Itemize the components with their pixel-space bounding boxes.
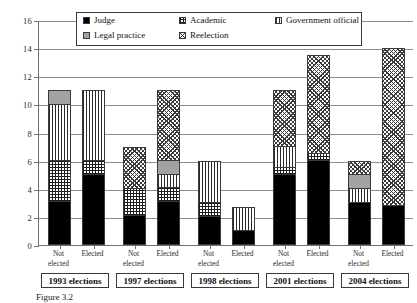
y-axis-label: 16 <box>23 16 32 26</box>
bar-segment-government-official <box>199 162 220 203</box>
bar-segment-reelection <box>124 148 145 189</box>
bar-segment-academic <box>158 188 179 202</box>
x-axis-category-label: Elected <box>366 249 417 259</box>
y-axis-label: 10 <box>23 100 32 110</box>
plot-area: 0246810121416 <box>38 21 413 246</box>
y-axis-tick <box>34 218 39 219</box>
legend-item-legal-practice: Legal practice <box>83 30 179 41</box>
group-label-1997: 1997 elections <box>116 273 184 288</box>
bar-segment-government-official <box>83 91 104 160</box>
group-label-1998: 1998 elections <box>191 273 259 288</box>
bar-not-elected-2 <box>123 147 146 245</box>
bar-segment-judge <box>233 231 254 244</box>
bar-segment-reelection <box>274 91 295 147</box>
bar-segment-judge <box>83 175 104 244</box>
bar-segment-judge <box>383 206 404 244</box>
bar-segment-academic <box>49 161 70 203</box>
bar-segment-legal-practice <box>49 91 70 105</box>
legend-swatch-reelection-icon <box>179 32 186 39</box>
y-axis-tick <box>34 246 39 247</box>
bar-elected-1 <box>82 90 105 245</box>
legend-item-academic: Academic <box>179 15 275 26</box>
legend-item-reelection: Reelection <box>179 30 275 41</box>
legend-row-1: Judge Academic Government official <box>83 15 361 30</box>
x-axis-label-line: elected <box>273 259 294 268</box>
y-axis-label: 4 <box>28 185 32 195</box>
y-axis-tick <box>34 134 39 135</box>
y-axis-label: 6 <box>28 157 32 167</box>
legend-label-reelection: Reelection <box>190 30 228 41</box>
legend-item-judge: Judge <box>83 15 179 26</box>
group-label-2004: 2004 elections <box>341 273 409 288</box>
x-axis-label-line: Not <box>353 249 364 258</box>
bar-segment-academic <box>199 203 220 217</box>
legend-swatch-academic-icon <box>179 17 186 24</box>
x-axis-label-line: Elected <box>156 249 178 258</box>
legend-label-legal-practice: Legal practice <box>94 30 145 41</box>
bar-elected-5 <box>232 207 255 245</box>
bar-not-elected-4 <box>198 161 221 245</box>
bar-segment-judge <box>308 161 329 244</box>
bar-segment-legal-practice <box>349 175 370 189</box>
x-axis-label-line: Not <box>278 249 289 258</box>
y-axis-label: 2 <box>28 213 32 223</box>
legend-label-government-official: Government official <box>286 15 359 26</box>
bar-segment-judge <box>124 216 145 244</box>
chart-figure: 0246810121416 Judge Academic Government … <box>0 0 417 303</box>
y-axis-label: 14 <box>23 44 32 54</box>
bar-segment-reelection <box>308 56 329 153</box>
figure-caption: Figure 3.2 <box>36 292 73 302</box>
legend-row-2: Legal practice Reelection <box>83 30 361 45</box>
legend-swatch-government-official-icon <box>275 17 282 24</box>
legend-swatch-judge-icon <box>83 17 90 24</box>
x-axis-label-line: elected <box>198 259 219 268</box>
bar-elected-9 <box>382 48 405 245</box>
x-axis-label-line: Not <box>128 249 139 258</box>
y-axis-tick <box>34 162 39 163</box>
x-axis-label-line: Not <box>203 249 214 258</box>
x-axis-label-line: Elected <box>306 249 328 258</box>
bar-elected-7 <box>307 55 330 245</box>
bar-segment-government-official <box>49 105 70 161</box>
bar-segment-judge <box>349 203 370 244</box>
gridline <box>39 49 413 50</box>
group-label-1993: 1993 elections <box>41 273 109 288</box>
y-axis-tick <box>34 105 39 106</box>
bar-segment-reelection <box>349 162 370 176</box>
y-axis-tick <box>34 49 39 50</box>
bar-segment-legal-practice <box>158 161 179 175</box>
legend-label-academic: Academic <box>190 15 226 26</box>
gridline <box>39 77 413 78</box>
group-label-2001: 2001 elections <box>266 273 334 288</box>
bar-segment-judge <box>49 202 70 244</box>
chart-legend: Judge Academic Government official Legal… <box>76 12 362 46</box>
bar-segment-government-official <box>274 147 295 168</box>
x-axis-label-line: Not <box>53 249 64 258</box>
x-axis-label-line: Elected <box>231 249 253 258</box>
bar-segment-government-official <box>349 189 370 203</box>
bar-segment-academic <box>308 154 329 161</box>
x-axis-label-line: elected <box>123 259 144 268</box>
bar-segment-judge <box>158 202 179 244</box>
x-axis-label-line: elected <box>48 259 69 268</box>
legend-label-judge: Judge <box>94 15 115 26</box>
bar-segment-academic <box>83 161 104 175</box>
bar-segment-judge <box>199 217 220 244</box>
y-axis-tick <box>34 77 39 78</box>
y-axis-label: 8 <box>28 129 32 139</box>
bar-elected-3 <box>157 90 180 245</box>
x-axis-label-line: elected <box>348 259 369 268</box>
bar-not-elected-8 <box>348 161 371 245</box>
legend-swatch-legal-practice-icon <box>83 32 90 39</box>
y-axis-label: 12 <box>23 72 32 82</box>
bar-segment-reelection <box>383 49 404 206</box>
bar-not-elected-0 <box>48 90 71 245</box>
y-axis-tick <box>34 21 39 22</box>
bar-segment-academic <box>274 168 295 175</box>
bar-segment-judge <box>274 175 295 244</box>
bar-segment-reelection <box>158 91 179 160</box>
bar-segment-academic <box>124 189 145 217</box>
y-axis-tick <box>34 190 39 191</box>
bar-segment-government-official <box>233 208 254 231</box>
x-axis-label-line: Elected <box>81 249 103 258</box>
